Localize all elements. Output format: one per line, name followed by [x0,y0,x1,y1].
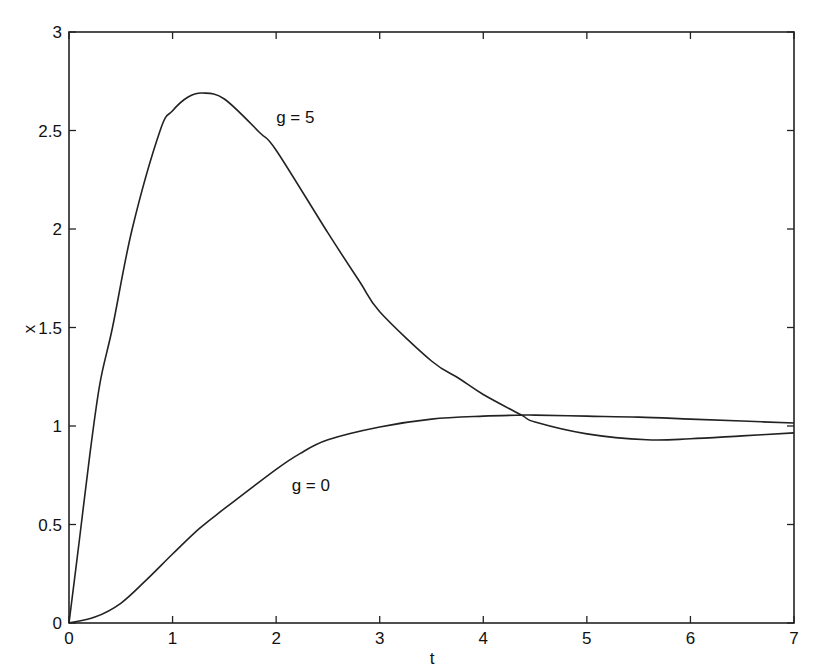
y-tick-label: 0 [53,614,62,633]
series-line-g-0 [69,415,794,623]
x-tick-label: 2 [271,629,280,648]
annotations: g = 5g = 0 [276,108,330,495]
series-line-g-5 [69,93,794,623]
x-axis: 01234567 [64,32,798,648]
series-group [69,93,794,623]
y-tick-label: 0.5 [38,516,62,535]
y-axis-label: x [20,324,39,333]
x-tick-label: 3 [375,629,384,648]
curve-annotation: g = 0 [292,476,330,495]
plot-area [69,32,794,623]
x-axis-label: t [430,649,435,668]
y-tick-label: 1.5 [38,319,62,338]
x-tick-label: 1 [168,629,177,648]
x-tick-label: 5 [582,629,591,648]
plot-frame [69,32,794,623]
y-tick-label: 2.5 [38,122,62,141]
y-tick-label: 2 [53,220,62,239]
x-tick-label: 0 [64,629,73,648]
x-tick-label: 7 [789,629,798,648]
x-tick-label: 4 [479,629,488,648]
y-axis: 00.511.522.53 [38,23,794,633]
y-tick-label: 3 [53,23,62,42]
line-chart: 01234567 00.511.522.53 g = 5g = 0 t x [0,0,818,672]
y-tick-label: 1 [53,417,62,436]
curve-annotation: g = 5 [276,108,314,127]
x-tick-label: 6 [686,629,695,648]
